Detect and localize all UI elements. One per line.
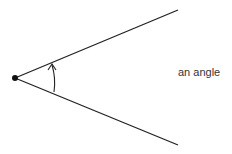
lower-ray xyxy=(15,78,178,145)
angle-label: an angle xyxy=(178,66,220,78)
angle-arc xyxy=(52,65,55,92)
arrowhead-icon xyxy=(48,64,56,70)
vertex-point xyxy=(12,75,18,81)
upper-ray xyxy=(15,10,178,78)
